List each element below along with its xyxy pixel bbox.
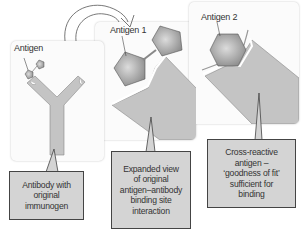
antigen-label: Antigen [14, 43, 43, 53]
callout-cross-reactive: Cross-reactive antigen – ‘goodness of fi… [207, 139, 296, 208]
callout-cross-reactive-text: Cross-reactive antigen – ‘goodness of fi… [223, 147, 279, 200]
cross-reactive-binding-site [202, 22, 299, 124]
antigen-2-label: Antigen 2 [201, 12, 237, 22]
callout-original-antibody: Antibody with original immunogen [9, 171, 84, 220]
expanded-binding-site [112, 26, 198, 140]
antigen-1-label: Antigen 1 [110, 25, 146, 35]
callout-expanded-text: Expanded view of original antigen–antibo… [120, 164, 182, 217]
antigen-small-pentagon-icon [24, 58, 44, 79]
antigen-1-pentagon-icon [114, 52, 145, 86]
callout-original-text: Antibody with original immunogen [22, 180, 71, 212]
callout-expanded-view: Expanded view of original antigen–antibo… [111, 151, 191, 229]
curved-arrow-icon [65, 5, 134, 41]
antigen-1-pentagon-top-icon [152, 26, 182, 56]
antigen-2-hexagon-icon [210, 34, 246, 66]
antibody-y-icon [27, 76, 85, 155]
